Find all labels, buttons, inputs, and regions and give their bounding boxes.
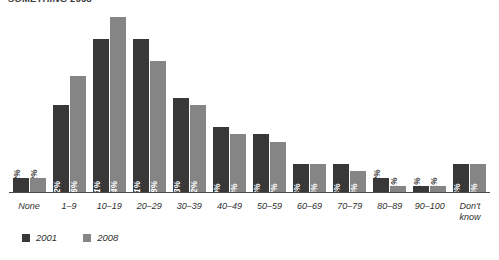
bar-wrapper: 4% — [453, 10, 469, 193]
bar-group: 21%18% — [129, 10, 169, 193]
x-axis-labels: None1–910–1920–2930–3940–4950–5960–6970–… — [9, 196, 490, 223]
bar-2008-Don't-know[interactable]: 4% — [470, 164, 486, 193]
bar-chart-figure: SOMETHING 2008 2%2%12%16%21%24%21%18%13%… — [0, 0, 499, 260]
bar-2008-None[interactable] — [30, 178, 46, 193]
bar-value-label: 21% — [132, 180, 141, 197]
x-axis-tick-label: 20–29 — [129, 196, 169, 223]
bar-wrapper: 9% — [213, 10, 229, 193]
bar-value-label: 8% — [253, 183, 262, 195]
bar-value-label: 4% — [310, 183, 319, 195]
bar-2001-Don't-know[interactable]: 4% — [453, 164, 469, 193]
x-axis-tick-label: 40–49 — [209, 196, 249, 223]
bar-value-label: 18% — [149, 180, 158, 197]
bar-wrapper: 16% — [70, 10, 86, 193]
bar-value-label: 24% — [109, 180, 118, 197]
bar-wrapper: 18% — [150, 10, 166, 193]
bar-group: 21%24% — [89, 10, 129, 193]
bar-2008-50–59[interactable]: 7% — [270, 142, 286, 193]
bar-group: 2%2% — [9, 10, 49, 193]
legend-label: 2001 — [36, 233, 57, 243]
bar-group: 4%3% — [330, 10, 370, 193]
bar-wrapper: 12% — [190, 10, 206, 193]
bar-wrapper: 2% — [373, 10, 389, 193]
bar-value-label: 12% — [52, 180, 61, 197]
bar-wrapper: 7% — [270, 10, 286, 193]
bar-wrapper: 8% — [230, 10, 246, 193]
x-axis-tick-label: 30–39 — [169, 196, 209, 223]
x-axis-tick-label: None — [9, 196, 49, 223]
x-axis-tick-label: 60–69 — [290, 196, 330, 223]
bar-group: 12%16% — [49, 10, 89, 193]
bar-groups: 2%2%12%16%21%24%21%18%13%12%9%8%8%7%4%4%… — [9, 10, 490, 193]
bar-2001-60–69[interactable]: 4% — [293, 164, 309, 193]
x-axis-tick-label: 1–9 — [49, 196, 89, 223]
bar-value-label: 13% — [172, 180, 181, 197]
legend-label: 2008 — [97, 233, 118, 243]
chart-title: SOMETHING 2008 — [8, 0, 92, 5]
bar-group: 13%12% — [169, 10, 209, 193]
bar-group: 1%1% — [410, 10, 450, 193]
bar-wrapper: 4% — [310, 10, 326, 193]
bar-wrapper: 2% — [30, 10, 46, 193]
bar-group: 2%1% — [370, 10, 410, 193]
bar-2008-70–79[interactable]: 3% — [350, 171, 366, 193]
bar-wrapper: 24% — [110, 10, 126, 193]
bar-group: 8%7% — [249, 10, 289, 193]
x-axis-tick-label: 10–19 — [89, 196, 129, 223]
bar-wrapper: 1% — [430, 10, 446, 193]
bar-wrapper: 21% — [93, 10, 109, 193]
bar-value-label: 4% — [470, 183, 479, 195]
bar-value-label: 12% — [189, 180, 198, 197]
bar-wrapper: 4% — [333, 10, 349, 193]
bar-2001-40–49[interactable]: 9% — [213, 127, 229, 193]
bar-wrapper: 8% — [253, 10, 269, 193]
bar-2001-80–89[interactable] — [373, 178, 389, 193]
bar-wrapper: 4% — [470, 10, 486, 193]
bar-value-label: 4% — [293, 183, 302, 195]
bar-group: 4%4% — [290, 10, 330, 193]
bar-2008-60–69[interactable]: 4% — [310, 164, 326, 193]
chart-legend: 20012008 — [22, 233, 118, 243]
bar-value-label: 21% — [92, 180, 101, 197]
x-axis-tick-label: 70–79 — [330, 196, 370, 223]
bar-wrapper: 3% — [350, 10, 366, 193]
plot-area: 2%2%12%16%21%24%21%18%13%12%9%8%8%7%4%4%… — [9, 10, 490, 193]
bar-2001-50–59[interactable]: 8% — [253, 134, 269, 193]
bar-value-label: 9% — [212, 183, 221, 195]
bar-value-label: 16% — [69, 180, 78, 197]
bar-value-label: 4% — [453, 183, 462, 195]
bar-value-label: 4% — [333, 183, 342, 195]
bar-2008-30–39[interactable]: 12% — [190, 105, 206, 193]
bar-wrapper: 1% — [390, 10, 406, 193]
bar-2001-None[interactable] — [13, 178, 29, 193]
bar-2008-20–29[interactable]: 18% — [150, 61, 166, 193]
legend-item-2001[interactable]: 2001 — [22, 233, 57, 243]
bar-wrapper: 2% — [13, 10, 29, 193]
legend-swatch-icon — [83, 234, 91, 242]
bar-2001-20–29[interactable]: 21% — [133, 39, 149, 193]
bar-value-label: 8% — [229, 183, 238, 195]
bar-wrapper: 1% — [413, 10, 429, 193]
bar-group: 4%4% — [450, 10, 490, 193]
bar-wrapper: 4% — [293, 10, 309, 193]
legend-item-2008[interactable]: 2008 — [83, 233, 118, 243]
x-axis-tick-label: 50–59 — [249, 196, 289, 223]
x-axis-tick-label: 90–100 — [410, 196, 450, 223]
bar-2001-1–9[interactable]: 12% — [53, 105, 69, 193]
bar-2001-10–19[interactable]: 21% — [93, 39, 109, 193]
x-axis-tick-label: 80–89 — [370, 196, 410, 223]
bar-2008-10–19[interactable]: 24% — [110, 17, 126, 193]
bar-wrapper: 21% — [133, 10, 149, 193]
bar-2008-1–9[interactable]: 16% — [70, 76, 86, 193]
bar-2001-70–79[interactable]: 4% — [333, 164, 349, 193]
bar-value-label: 3% — [350, 183, 359, 195]
x-axis-tick-label: Don't know — [450, 196, 490, 223]
legend-swatch-icon — [22, 234, 30, 242]
bar-wrapper: 13% — [173, 10, 189, 193]
x-axis-line — [9, 192, 490, 193]
bar-group: 9%8% — [209, 10, 249, 193]
bar-value-label: 7% — [270, 183, 279, 195]
bar-wrapper: 12% — [53, 10, 69, 193]
bar-2001-30–39[interactable]: 13% — [173, 98, 189, 193]
bar-2008-40–49[interactable]: 8% — [230, 134, 246, 193]
